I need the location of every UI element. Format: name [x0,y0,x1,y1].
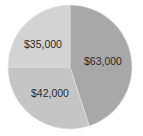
slice-label-42000: $42,000 [31,87,69,99]
slice-label-63000: $63,000 [84,55,122,67]
pie-chart: $63,000 $42,000 $35,000 [0,0,143,136]
slice-label-35000: $35,000 [24,38,62,50]
pie-slice [8,5,70,67]
